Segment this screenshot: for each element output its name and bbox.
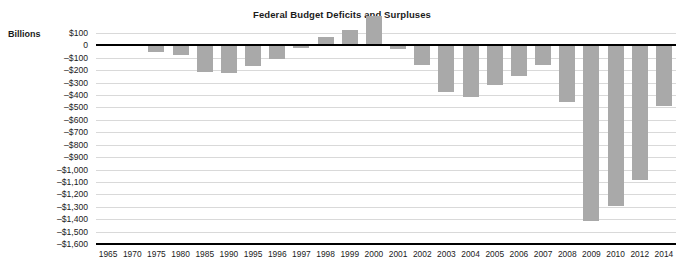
x-axis-tick-label: 1985: [195, 249, 214, 259]
x-axis-tick-label: 2010: [606, 249, 625, 259]
bar: [535, 45, 551, 65]
y-axis-tick-label: –$200: [64, 65, 88, 75]
x-axis-tick-label: 2009: [582, 249, 601, 259]
y-axis-tick-label: $100: [69, 28, 88, 38]
bar: [632, 45, 648, 180]
x-axis-tick-label: 1999: [340, 249, 359, 259]
x-axis-tick-label: 1995: [244, 249, 263, 259]
x-axis-tick-label: 2007: [534, 249, 553, 259]
y-axis-tick-label: –$1,100: [57, 177, 88, 187]
y-axis-tick-label: –$1,200: [57, 189, 88, 199]
y-axis-tick-label: –$100: [64, 53, 88, 63]
y-axis-tick-label: –$900: [64, 152, 88, 162]
bar: [559, 45, 575, 102]
bar: [197, 45, 213, 71]
bar: [608, 45, 624, 206]
x-axis-tick-label: 2012: [630, 249, 649, 259]
bar: [221, 45, 237, 72]
bar: [245, 45, 261, 65]
y-axis-tick-label: –$1,600: [57, 239, 88, 249]
bar-series: [96, 33, 676, 244]
y-axis-tick-label: 0: [83, 40, 88, 50]
y-axis-tick-label: –$1,000: [57, 165, 88, 175]
bar: [342, 30, 358, 46]
x-axis-tick-label: 2002: [413, 249, 432, 259]
x-axis-tick-label: 2000: [365, 249, 384, 259]
bar: [463, 45, 479, 96]
x-axis-tick-label: 1997: [292, 249, 311, 259]
y-axis-tick-label: –$1,400: [57, 214, 88, 224]
x-axis-tick-label: 1996: [268, 249, 287, 259]
bar: [438, 45, 454, 92]
y-axis-tick-label: –$800: [64, 140, 88, 150]
x-axis-tick-label: 1975: [147, 249, 166, 259]
x-axis-tick-label: 1990: [220, 249, 239, 259]
zero-axis-line: [96, 44, 676, 46]
x-axis-tick-label: 2001: [389, 249, 408, 259]
y-axis-tick-label: –$1,300: [57, 202, 88, 212]
bar: [511, 45, 527, 76]
bar: [366, 16, 382, 45]
x-axis-tick-label: 1998: [316, 249, 335, 259]
y-axis-tick-label: –$300: [64, 78, 88, 88]
x-axis-tick-label: 1965: [99, 249, 118, 259]
plot-area: [96, 33, 676, 244]
y-axis-tick-label: –$500: [64, 102, 88, 112]
x-axis-tick-label: 2014: [655, 249, 674, 259]
y-axis-tick-label: –$600: [64, 115, 88, 125]
x-axis-tick-label: 2003: [437, 249, 456, 259]
bar: [173, 45, 189, 54]
chart-figure: Federal Budget Deficits and Surpluses Bi…: [0, 0, 684, 271]
y-axis-tick-label: –$700: [64, 127, 88, 137]
x-axis-tick-label: 1970: [123, 249, 142, 259]
chart-title: Federal Budget Deficits and Surpluses: [0, 9, 684, 20]
x-axis-tick-label: 2006: [510, 249, 529, 259]
bar: [487, 45, 503, 84]
bar: [656, 45, 672, 105]
bar: [583, 45, 599, 220]
x-axis-tick-labels: 1965197019751980198519901995199619971998…: [96, 249, 676, 263]
x-axis-tick-label: 2005: [485, 249, 504, 259]
x-axis-tick-label: 2008: [558, 249, 577, 259]
bar: [269, 45, 285, 58]
y-axis-tick-label: –$1,500: [57, 227, 88, 237]
x-axis-tick-label: 2004: [461, 249, 480, 259]
y-axis-tick-label: –$400: [64, 90, 88, 100]
y-axis-tick-labels: $1000–$100–$200–$300–$400–$500–$600–$700…: [0, 33, 92, 244]
bar: [414, 45, 430, 65]
x-axis-tick-label: 1980: [171, 249, 190, 259]
